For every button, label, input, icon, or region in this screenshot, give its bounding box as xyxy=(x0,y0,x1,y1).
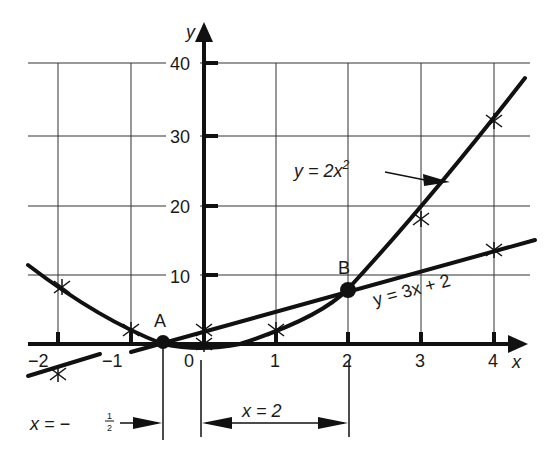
grid xyxy=(28,63,530,344)
y-tick-40: 40 xyxy=(170,54,190,74)
x-tick-1: 1 xyxy=(270,351,280,371)
y-tick-10: 10 xyxy=(170,267,190,287)
annotation-frac-num: 1 xyxy=(107,411,112,421)
y-tick-20: 20 xyxy=(170,197,190,217)
intersection-point-b xyxy=(340,282,356,298)
axis-label-x: x xyxy=(511,352,522,372)
curve-label: y = 2x2 xyxy=(292,158,350,181)
axis-label-y: y xyxy=(184,22,196,42)
point-label-b: B xyxy=(338,258,350,278)
annotation-x-neg-half: x = − xyxy=(29,414,70,434)
x-tick-neg1: −1 xyxy=(102,351,123,371)
y-tick-30: 30 xyxy=(170,127,190,147)
linear-line-main xyxy=(131,240,535,352)
annotation-x-2: x = 2 xyxy=(241,401,282,421)
x-tick-4: 4 xyxy=(488,351,498,371)
annotation-frac-den: 2 xyxy=(107,423,112,433)
point-label-a: A xyxy=(154,311,166,331)
x-tick-neg2: −2 xyxy=(28,351,49,371)
x-tick-0: 0 xyxy=(184,351,194,371)
intersection-point-a xyxy=(156,335,170,349)
graph-canvas: y x 40 30 20 10 −2 −1 0 1 2 3 4 A B y = … xyxy=(0,0,557,451)
x-tick-2: 2 xyxy=(342,351,352,371)
dimension-lines xyxy=(120,344,349,440)
x-tick-3: 3 xyxy=(415,351,425,371)
